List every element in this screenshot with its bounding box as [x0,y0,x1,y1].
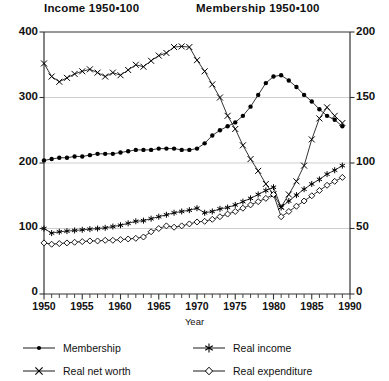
legend-marker-x-icon [22,364,56,378]
legend-marker-diamond-icon [192,364,226,378]
legend-item-real-expenditure: Real expenditure [192,364,370,378]
legend-item-real-income: Real income [192,341,370,355]
data-series-layer [41,43,345,247]
x-axis-ticks [44,294,350,300]
legend-item-membership: Membership [22,341,192,355]
series-real-net-worth [41,43,345,209]
plot-area [0,0,389,381]
legend-label-real-expenditure: Real expenditure [233,365,312,377]
legend-label-real-income: Real income [233,342,291,354]
legend-label-real-net-worth: Real net worth [63,365,131,377]
chart-legend: Membership Real income Real net [22,336,370,381]
series-real-expenditure [41,174,345,247]
series-membership [42,73,345,163]
chart-container: Income 1950▪100 Membership 1950▪100 400 … [0,0,389,381]
legend-marker-asterisk-icon [192,341,226,355]
legend-item-real-net-worth: Real net worth [22,364,192,378]
series-real-income [41,163,345,236]
legend-label-membership: Membership [63,342,121,354]
legend-marker-filled-circle-icon [22,341,56,355]
